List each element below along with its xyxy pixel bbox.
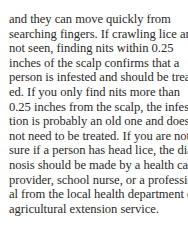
text-line: searching fingers. If crawling lice are <box>9 27 187 42</box>
text-line: 0.25 inches from the scalp, the infesta- <box>9 100 187 115</box>
text-line: tion is probably an old one and does <box>9 114 187 129</box>
body-paragraph: and they can move quickly from searching… <box>9 12 187 216</box>
text-line: nosis should be made by a health care <box>9 158 187 173</box>
text-line: not need to be treated. If you are not <box>9 129 187 144</box>
document-page: and they can move quickly from searching… <box>9 12 187 216</box>
text-line: inches of the scalp confirms that a <box>9 56 187 71</box>
text-line: sure if a person has head lice, the diag… <box>9 143 187 158</box>
text-line: person is infested and should be treat- <box>9 70 187 85</box>
text-line: and they can move quickly from <box>9 12 187 27</box>
text-line: al from the local health department or <box>9 187 187 202</box>
text-line: agricultural extension service. <box>9 202 187 217</box>
text-line: provider, school nurse, or a profession- <box>9 173 187 188</box>
text-line: ed. If you only find nits more than <box>9 85 187 100</box>
text-line: not seen, finding nits within 0.25 <box>9 41 187 56</box>
